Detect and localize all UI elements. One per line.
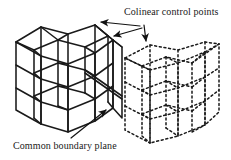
arrow-to-boundary-plane [71, 110, 106, 138]
figure-canvas: Colinear control points Common boundary … [0, 0, 231, 160]
right-lattice [125, 42, 219, 143]
arrow-to-boundary-top [114, 28, 142, 36]
diagram-svg [0, 0, 231, 160]
boundary-arrow [71, 110, 106, 138]
arrow-to-left-lattice-top [101, 22, 140, 26]
label-common-boundary-plane: Common boundary plane [13, 141, 117, 151]
arrow-to-right-lattice [144, 25, 146, 41]
left-lattice [16, 25, 122, 132]
label-colinear-control-points: Colinear control points [124, 7, 219, 17]
